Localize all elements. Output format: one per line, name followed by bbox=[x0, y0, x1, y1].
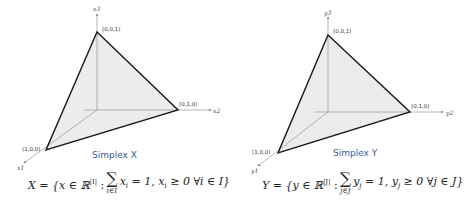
axis-label-y2: y2 bbox=[445, 109, 453, 117]
simplex-y-panel: y3 y2 y1 (0,0,1) (0,1,0) (1,0,0) Simplex… bbox=[250, 9, 453, 175]
formula-rest1: = 1, x bbox=[128, 175, 164, 188]
axis-label-x1: x1 bbox=[17, 164, 24, 171]
vertex-label-right: (0,1,0) bbox=[179, 101, 197, 107]
formula-colon: : bbox=[97, 179, 104, 192]
simplex-y-title: Simplex Y bbox=[333, 148, 378, 158]
formula-rest2: ≥ 0 ∀i ∈ I} bbox=[167, 175, 230, 188]
vertex-label-left: (1,0,0) bbox=[22, 146, 40, 152]
formula-rest1: = 1, y bbox=[362, 175, 398, 188]
sum-subscript: i∈I bbox=[107, 188, 117, 195]
axis-label-x3: x3 bbox=[93, 5, 100, 12]
axis-label-x2: x2 bbox=[213, 107, 220, 114]
formula-colon: : bbox=[331, 179, 338, 192]
sum-symbol: ∑ bbox=[106, 171, 117, 187]
vertex-label-top: (0,0,1) bbox=[333, 28, 351, 34]
simplex-x-title: Simplex X bbox=[92, 150, 137, 160]
simplex-x-panel: x3 x2 x1 (0,0,1) (0,1,0) (1,0,0) Simplex… bbox=[17, 5, 220, 171]
formula-lhs: X = {x ∈ ℝ bbox=[28, 179, 90, 192]
vertex-label-left: (1,0,0) bbox=[252, 149, 270, 155]
summation: ∑i∈I bbox=[106, 172, 117, 195]
formula-sup: |I| bbox=[90, 178, 97, 186]
vertex-label-right: (0,1,0) bbox=[411, 103, 429, 109]
axis-label-y3: y3 bbox=[323, 9, 331, 17]
formula-lhs: Y = {y ∈ ℝ bbox=[262, 179, 323, 192]
vertex-label-top: (0,0,1) bbox=[102, 26, 120, 32]
formula-rest2: ≥ 0 ∀j ∈ J} bbox=[400, 175, 463, 188]
axis-label-y1: y1 bbox=[250, 167, 258, 175]
sum-symbol: ∑ bbox=[340, 171, 351, 187]
simplex-y-formula: Y = {y ∈ ℝ|J| : ∑j∈J yj = 1, yj ≥ 0 ∀j ∈… bbox=[262, 172, 463, 196]
summation: ∑j∈J bbox=[340, 172, 351, 195]
formula-sup: |J| bbox=[323, 178, 331, 186]
sum-subscript: j∈J bbox=[340, 188, 350, 195]
simplex-x-formula: X = {x ∈ ℝ|I| : ∑i∈I xi = 1, xi ≥ 0 ∀i ∈… bbox=[28, 172, 230, 196]
